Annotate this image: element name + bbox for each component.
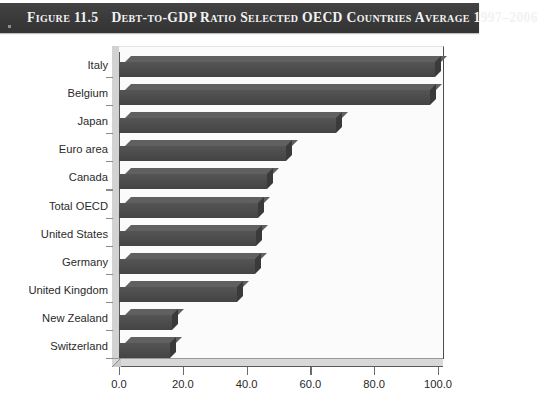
bar-side-face (170, 337, 176, 358)
x-axis-tick-label: 100.0 (408, 378, 468, 390)
y-axis-tick (106, 105, 113, 106)
x-axis-tick-label: 80.0 (344, 378, 404, 390)
bar-front-face (119, 146, 286, 161)
category-label: Italy (4, 59, 108, 71)
x-axis-tick-label: 60.0 (280, 378, 340, 390)
category-label: Total OECD (4, 200, 108, 212)
y-axis-tick (106, 330, 113, 331)
bar-front-face (119, 62, 435, 77)
bar[interactable] (119, 253, 261, 274)
bar-side-face (267, 168, 273, 189)
category-label: United States (4, 228, 108, 240)
bar[interactable] (119, 112, 342, 133)
bar[interactable] (119, 225, 262, 246)
category-label: United Kingdom (4, 284, 108, 296)
axis-left-wall (112, 46, 119, 358)
x-axis-tick (183, 367, 184, 375)
x-axis-tick (119, 367, 120, 375)
bar[interactable] (119, 337, 176, 358)
bar[interactable] (119, 309, 178, 330)
y-axis-tick (106, 133, 113, 134)
bar-front-face (119, 259, 255, 274)
y-axis-tick (106, 189, 113, 190)
y-axis-tick (106, 77, 113, 78)
bar-front-face (119, 343, 170, 358)
bar[interactable] (119, 84, 436, 105)
bar-front-face (119, 174, 267, 189)
x-axis-line (112, 366, 443, 367)
bar[interactable] (119, 56, 441, 77)
y-axis-tick (106, 246, 113, 247)
category-label: Switzerland (4, 340, 108, 352)
category-label: Canada (4, 171, 108, 183)
x-axis-tick (310, 367, 311, 375)
x-axis-tick-label: 0.0 (89, 378, 149, 390)
y-axis-tick (106, 218, 113, 219)
bar-front-face (119, 203, 258, 218)
bar-front-face (119, 315, 172, 330)
bar[interactable] (119, 197, 264, 218)
bar-front-face (119, 231, 256, 246)
y-axis-tick (106, 358, 113, 359)
x-axis-tick (374, 367, 375, 375)
bar-side-face (430, 84, 436, 105)
bar-front-face (119, 90, 430, 105)
x-axis-tick (438, 367, 439, 375)
category-label: Euro area (4, 143, 108, 155)
bar[interactable] (119, 168, 273, 189)
bar-side-face (336, 112, 342, 133)
y-axis-tick (106, 274, 113, 275)
y-axis-tick (106, 161, 113, 162)
bar[interactable] (119, 281, 243, 302)
bar-front-face (119, 118, 336, 133)
x-axis-tick-label: 40.0 (217, 378, 277, 390)
category-axis-labels: ItalyBelgiumJapanEuro areaCanadaTotal OE… (0, 0, 108, 411)
category-label: Germany (4, 256, 108, 268)
y-axis-tick (106, 302, 113, 303)
x-axis-tick-label: 20.0 (153, 378, 213, 390)
category-label: Japan (4, 115, 108, 127)
bar[interactable] (119, 140, 292, 161)
bar-side-face (286, 140, 292, 161)
category-label: New Zealand (4, 312, 108, 324)
bar-front-face (119, 287, 237, 302)
x-axis-tick (247, 367, 248, 375)
category-label: Belgium (4, 87, 108, 99)
